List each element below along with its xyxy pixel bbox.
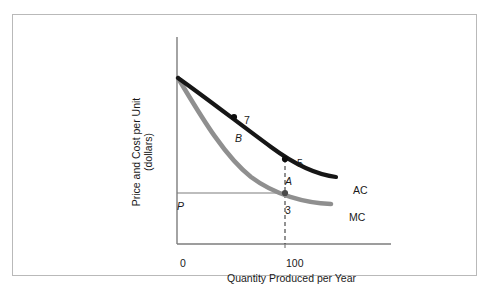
x-tick-label-100: 100 [286, 258, 304, 270]
point-mc-marker [282, 190, 288, 196]
point-b-name-label: B [235, 133, 242, 145]
point-a-value-label: 5 [297, 158, 303, 170]
point-mc-value-label: 3 [285, 205, 291, 217]
figure-canvas: Price and Cost per Unit (dollars) Quanti… [0, 0, 489, 289]
point-a-name-label: A [285, 176, 292, 188]
ac-curve-label: AC [353, 185, 368, 197]
x-tick-label-0: 0 [180, 258, 186, 270]
point-b-marker [231, 114, 237, 120]
y-tick-label-price: P [177, 201, 184, 213]
y-axis-title-line1: Price and Cost per Unit [130, 98, 142, 207]
ac-curve [178, 78, 336, 177]
x-axis-title: Quantity Produced per Year [227, 273, 356, 285]
point-b-value-label: 7 [244, 115, 250, 127]
cost-curves-plot [13, 15, 476, 275]
mc-curve-label: MC [349, 212, 365, 224]
y-axis-title: Price and Cost per Unit (dollars) [131, 93, 155, 211]
figure-border: Price and Cost per Unit (dollars) Quanti… [12, 14, 477, 276]
point-a-marker [282, 156, 288, 162]
y-axis-title-line2: (dollars) [143, 93, 155, 211]
